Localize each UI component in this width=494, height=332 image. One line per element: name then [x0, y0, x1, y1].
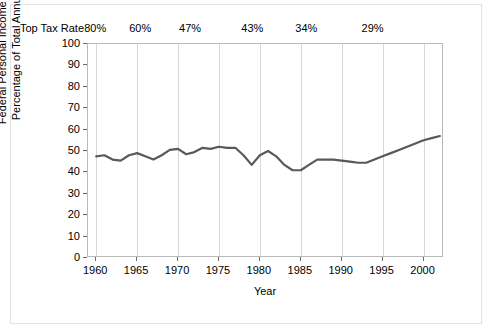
series-line: [96, 136, 440, 170]
x-tick-mark: [341, 257, 342, 261]
y-tick-label: 10: [68, 230, 80, 242]
plot-area: [87, 43, 443, 257]
x-axis-label: Year: [87, 285, 443, 297]
y-tick-label: 40: [68, 165, 80, 177]
y-tick-label: 20: [68, 208, 80, 220]
y-tick-label: 100: [62, 37, 80, 49]
x-tick-label: 1970: [165, 264, 189, 276]
y-tick-label: 0: [74, 251, 80, 263]
x-tick-mark: [382, 257, 383, 261]
x-tick-mark: [259, 257, 260, 261]
x-tick-label: 1980: [247, 264, 271, 276]
y-tick-mark: [83, 86, 87, 87]
y-tick-mark: [83, 64, 87, 65]
y-axis-label-line1: Federal Personal Income Taxes as a: [0, 0, 8, 150]
x-tick-mark: [300, 257, 301, 261]
top-tax-rate-axis-label: Top Tax Rate: [20, 22, 84, 34]
top-tax-rate-tick-label: 29%: [362, 22, 384, 34]
x-tick-mark: [177, 257, 178, 261]
top-tax-rate-tick-label: 47%: [179, 22, 201, 34]
x-tick-label: 1975: [206, 264, 230, 276]
x-tick-label: 1985: [288, 264, 312, 276]
y-axis-label-line2: Percentage of Total Annual Income: [10, 0, 22, 150]
y-tick-mark: [83, 214, 87, 215]
y-tick-label: 80: [68, 80, 80, 92]
top-tax-rate-tick-label: 60%: [129, 22, 151, 34]
income-tax-percentage-line: [88, 44, 444, 258]
x-tick-label: 1995: [369, 264, 393, 276]
x-tick-label: 1965: [124, 264, 148, 276]
y-tick-mark: [83, 150, 87, 151]
y-tick-label: 50: [68, 144, 80, 156]
top-tax-rate-tick-label: 43%: [241, 22, 263, 34]
chart-figure: Top Tax Rate 80%60%47%43%34%29% 01020304…: [0, 0, 494, 332]
x-tick-label: 1990: [328, 264, 352, 276]
y-tick-label: 30: [68, 187, 80, 199]
y-tick-label: 90: [68, 58, 80, 70]
top-tax-rate-tick-label: 34%: [295, 22, 317, 34]
y-tick-label: 70: [68, 101, 80, 113]
y-tick-mark: [83, 107, 87, 108]
x-tick-mark: [136, 257, 137, 261]
top-tax-rate-tick-label: 80%: [84, 22, 106, 34]
y-tick-label: 60: [68, 123, 80, 135]
x-tick-mark: [423, 257, 424, 261]
y-tick-mark: [83, 171, 87, 172]
x-tick-mark: [95, 257, 96, 261]
x-tick-label: 2000: [410, 264, 434, 276]
x-tick-label: 1960: [83, 264, 107, 276]
y-tick-mark: [83, 43, 87, 44]
y-tick-mark: [83, 257, 87, 258]
y-tick-mark: [83, 193, 87, 194]
x-tick-mark: [218, 257, 219, 261]
y-tick-mark: [83, 236, 87, 237]
y-tick-mark: [83, 129, 87, 130]
